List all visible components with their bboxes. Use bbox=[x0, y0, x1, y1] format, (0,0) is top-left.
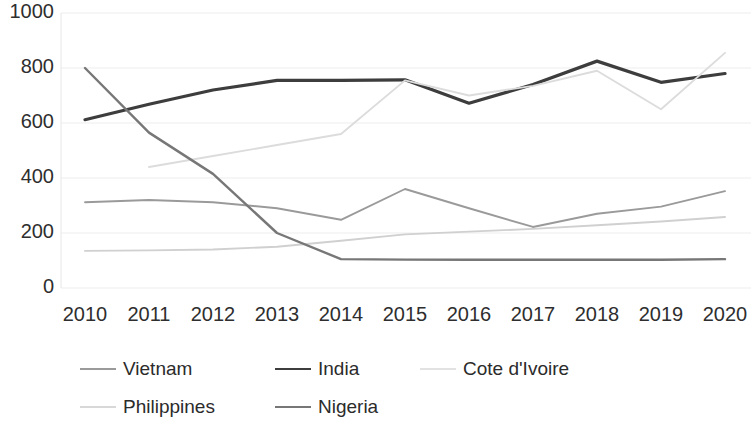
legend-line-swatch bbox=[420, 368, 456, 370]
x-tick-label: 2014 bbox=[309, 303, 373, 326]
legend-label: Cote d'Ivoire bbox=[463, 358, 569, 380]
x-tick-label: 2020 bbox=[693, 303, 753, 326]
series-line-philippines bbox=[85, 217, 725, 251]
y-tick-label: 600 bbox=[21, 110, 54, 133]
x-tick-label: 2012 bbox=[181, 303, 245, 326]
y-tick-label: 800 bbox=[21, 55, 54, 78]
legend-item-philippines[interactable]: Philippines bbox=[80, 390, 215, 424]
series-line-cote-d-ivoire bbox=[149, 53, 725, 167]
series-line-vietnam bbox=[85, 189, 725, 227]
legend-line-swatch bbox=[80, 406, 116, 408]
chart-legend: VietnamIndiaCote d'IvoirePhilippinesNige… bbox=[0, 352, 753, 432]
legend-row: VietnamIndiaCote d'Ivoire bbox=[0, 352, 753, 386]
line-chart: 10008006004002000 2010201120122013201420… bbox=[0, 0, 753, 432]
plot-area bbox=[0, 0, 753, 340]
legend-item-india[interactable]: India bbox=[275, 352, 359, 386]
x-tick-label: 2019 bbox=[629, 303, 693, 326]
legend-item-vietnam[interactable]: Vietnam bbox=[80, 352, 192, 386]
x-tick-label: 2018 bbox=[565, 303, 629, 326]
x-tick-label: 2013 bbox=[245, 303, 309, 326]
y-tick-label: 400 bbox=[21, 165, 54, 188]
legend-label: Vietnam bbox=[123, 358, 192, 380]
y-tick-label: 200 bbox=[21, 220, 54, 243]
legend-line-swatch bbox=[80, 368, 116, 370]
x-tick-label: 2017 bbox=[501, 303, 565, 326]
legend-label: Nigeria bbox=[318, 396, 378, 418]
legend-label: Philippines bbox=[123, 396, 215, 418]
legend-line-swatch bbox=[275, 406, 311, 408]
legend-row: PhilippinesNigeria bbox=[0, 390, 753, 424]
x-tick-label: 2016 bbox=[437, 303, 501, 326]
y-tick-label: 1000 bbox=[10, 0, 55, 23]
x-tick-label: 2010 bbox=[53, 303, 117, 326]
legend-line-swatch bbox=[275, 368, 311, 370]
x-tick-label: 2015 bbox=[373, 303, 437, 326]
x-tick-label: 2011 bbox=[117, 303, 181, 326]
legend-label: India bbox=[318, 358, 359, 380]
y-tick-label: 0 bbox=[43, 275, 54, 298]
legend-item-cote-d-ivoire[interactable]: Cote d'Ivoire bbox=[420, 352, 569, 386]
legend-item-nigeria[interactable]: Nigeria bbox=[275, 390, 378, 424]
